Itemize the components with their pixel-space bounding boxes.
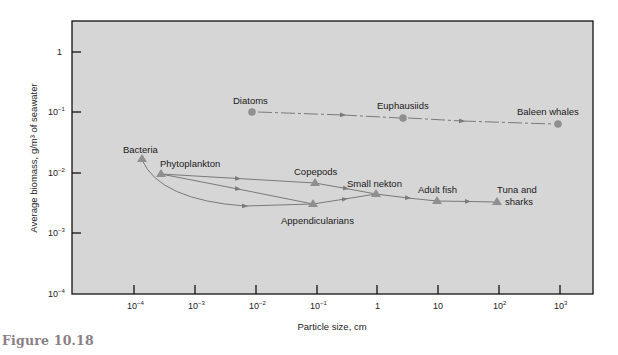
- label-euphausiids: Euphausiids: [377, 100, 429, 111]
- x-axis-tick-labels: 10−4 10−3 10−2 10−1 1 10 102 103: [127, 300, 568, 311]
- biomass-particle-size-chart: 1 10−1 10−2 10−3 10−4 10−4 10−3 10−2 10−…: [0, 0, 618, 355]
- label-small-nekton: Small nekton: [347, 178, 402, 189]
- label-tuna-sharks-1: Tuna and: [497, 184, 537, 195]
- svg-text:10−3: 10−3: [188, 300, 206, 311]
- label-adult-fish: Adult fish: [418, 184, 457, 195]
- baleen-whales-marker: [554, 120, 562, 128]
- svg-text:102: 102: [493, 300, 507, 311]
- svg-text:10−4: 10−4: [48, 288, 66, 299]
- svg-text:103: 103: [554, 300, 568, 311]
- svg-text:10−4: 10−4: [127, 300, 145, 311]
- svg-text:1: 1: [375, 301, 380, 311]
- label-appendicularians: Appendicularians: [281, 215, 354, 226]
- label-baleen-whales: Baleen whales: [517, 106, 579, 117]
- svg-text:10−2: 10−2: [48, 167, 66, 178]
- label-copepods: Copepods: [294, 166, 338, 177]
- svg-text:10−1: 10−1: [310, 300, 328, 311]
- svg-text:10−2: 10−2: [249, 300, 267, 311]
- euphausiids-marker: [399, 114, 407, 122]
- svg-text:10: 10: [433, 301, 443, 311]
- label-phytoplankton: Phytoplankton: [160, 158, 220, 169]
- plot-area: [72, 21, 593, 294]
- svg-text:1: 1: [57, 47, 62, 57]
- label-tuna-sharks-2: sharks: [505, 196, 533, 207]
- y-axis-tick-labels: 1 10−1 10−2 10−3 10−4: [48, 47, 66, 299]
- svg-text:10−3: 10−3: [48, 227, 66, 238]
- y-axis-title: Average biomass, g/m³ of seawater: [28, 83, 39, 232]
- label-bacteria: Bacteria: [123, 144, 159, 155]
- figure-caption: Figure 10.18: [2, 333, 94, 348]
- diatoms-marker: [248, 108, 256, 116]
- x-axis-title: Particle size, cm: [297, 321, 366, 332]
- svg-text:10−1: 10−1: [48, 106, 66, 117]
- label-diatoms: Diatoms: [233, 95, 268, 106]
